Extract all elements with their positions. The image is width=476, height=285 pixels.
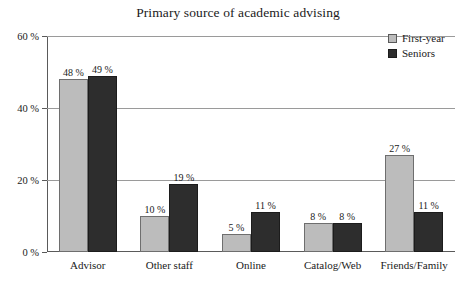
bar-value-label: 11 % xyxy=(255,200,275,211)
bar[interactable]: 10 % xyxy=(140,216,169,252)
bar[interactable]: 8 % xyxy=(304,223,333,252)
chart-title: Primary source of academic advising xyxy=(0,5,476,21)
bar-chart: Primary source of academic advising 0 %2… xyxy=(0,0,476,285)
bar[interactable]: 11 % xyxy=(414,212,443,252)
bar[interactable]: 19 % xyxy=(169,184,198,252)
x-axis-category-label: Friends/Family xyxy=(381,259,448,271)
y-tick-label-20: 20 % xyxy=(17,175,39,186)
y-tick-mark-60 xyxy=(42,36,47,37)
bar-group: 27 %11 %Friends/Family xyxy=(385,36,443,252)
x-axis-category-label: Advisor xyxy=(70,259,105,271)
bar[interactable]: 27 % xyxy=(385,155,414,252)
x-axis-category-label: Other staff xyxy=(146,259,193,271)
bar-value-label: 48 % xyxy=(63,67,84,78)
bar[interactable]: 11 % xyxy=(251,212,280,252)
bar-value-label: 11 % xyxy=(418,200,438,211)
bar-value-label: 8 % xyxy=(310,211,326,222)
bar-group: 48 %49 %Advisor xyxy=(59,36,117,252)
y-tick-label-60: 60 % xyxy=(17,31,39,42)
bar[interactable]: 5 % xyxy=(222,234,251,252)
bar-value-label: 19 % xyxy=(173,172,194,183)
legend-swatch-icon xyxy=(388,34,397,43)
y-tick-mark-20 xyxy=(42,180,47,181)
y-tick-mark-0 xyxy=(42,252,47,253)
plot-area: 0 %20 %40 %60 % 48 %49 %Advisor10 %19 %O… xyxy=(47,36,455,252)
y-axis-line xyxy=(47,36,48,252)
bar-group: 10 %19 %Other staff xyxy=(140,36,198,252)
y-tick-mark-40 xyxy=(42,108,47,109)
bar-value-label: 5 % xyxy=(229,222,245,233)
bar[interactable]: 8 % xyxy=(333,223,362,252)
bar-value-label: 8 % xyxy=(339,211,355,222)
legend-label: First-year xyxy=(402,32,445,44)
bar[interactable]: 49 % xyxy=(88,76,117,252)
legend-label: Seniors xyxy=(402,47,435,59)
bar[interactable]: 48 % xyxy=(59,79,88,252)
legend-swatch-icon xyxy=(388,49,397,58)
bar-value-label: 49 % xyxy=(92,64,113,75)
y-tick-label-40: 40 % xyxy=(17,103,39,114)
chart-legend: First-yearSeniors xyxy=(388,32,445,62)
bar-value-label: 10 % xyxy=(144,204,165,215)
x-axis-category-label: Online xyxy=(236,259,266,271)
bar-value-label: 27 % xyxy=(389,143,410,154)
bar-group: 8 %8 %Catalog/Web xyxy=(304,36,362,252)
bar-group: 5 %11 %Online xyxy=(222,36,280,252)
legend-item[interactable]: First-year xyxy=(388,32,445,44)
x-axis-category-label: Catalog/Web xyxy=(304,259,361,271)
legend-item[interactable]: Seniors xyxy=(388,47,445,59)
y-tick-label-0: 0 % xyxy=(22,247,39,258)
